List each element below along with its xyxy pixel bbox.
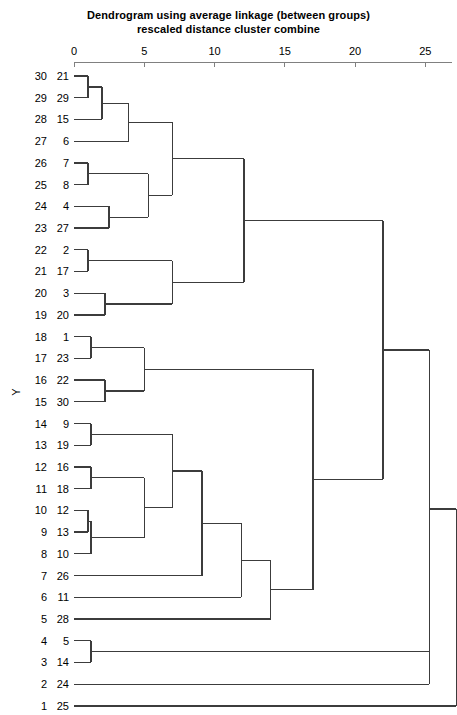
dendrogram-figure: Dendrogram using average linkage (betwee… <box>0 0 457 715</box>
leaf-index-label: 13 <box>35 439 47 451</box>
leaf-case-label: 14 <box>57 656 69 668</box>
x-axis-tick-label: 0 <box>71 45 77 57</box>
leaf-index-label: 15 <box>35 396 47 408</box>
y-axis-label: Y <box>10 388 22 396</box>
leaf-case-label: 26 <box>57 570 69 582</box>
x-axis-tick-label: 15 <box>279 45 291 57</box>
leaf-case-label: 5 <box>63 635 69 647</box>
leaf-index-label: 1 <box>41 700 47 712</box>
leaf-index-label: 17 <box>35 352 47 364</box>
leaf-case-label: 13 <box>57 526 69 538</box>
leaf-case-label: 7 <box>63 157 69 169</box>
leaf-labels: 3021292928152762672582442327222211720319… <box>35 70 69 712</box>
y-axis-title: Y <box>10 388 22 396</box>
leaf-case-label: 12 <box>57 504 69 516</box>
leaf-index-label: 19 <box>35 309 47 321</box>
x-axis-tick-label: 20 <box>349 45 361 57</box>
leaf-index-label: 29 <box>35 92 47 104</box>
x-axis-tick-label: 5 <box>141 45 147 57</box>
leaf-case-label: 20 <box>57 309 69 321</box>
leaf-index-label: 5 <box>41 613 47 625</box>
leaf-case-label: 27 <box>57 222 69 234</box>
leaf-index-label: 22 <box>35 244 47 256</box>
dendrogram-canvas: 0510152025 30212929281527626725824423272… <box>0 0 457 715</box>
leaf-index-label: 25 <box>35 179 47 191</box>
leaf-case-label: 9 <box>63 418 69 430</box>
leaf-case-label: 15 <box>57 113 69 125</box>
leaf-case-label: 8 <box>63 179 69 191</box>
leaf-case-label: 11 <box>58 591 69 603</box>
leaf-case-label: 22 <box>57 374 69 386</box>
leaf-index-label: 16 <box>35 374 47 386</box>
leaf-case-label: 16 <box>57 461 69 473</box>
leaf-case-label: 19 <box>57 439 69 451</box>
leaf-index-label: 3 <box>41 656 47 668</box>
leaf-case-label: 29 <box>57 92 69 104</box>
leaf-case-label: 3 <box>63 287 69 299</box>
leaf-index-label: 20 <box>35 287 47 299</box>
leaf-index-label: 27 <box>35 135 47 147</box>
leaf-index-label: 8 <box>41 548 47 560</box>
leaf-index-label: 18 <box>35 331 47 343</box>
leaf-index-label: 11 <box>36 483 47 495</box>
leaf-case-label: 21 <box>57 70 69 82</box>
leaf-index-label: 7 <box>41 570 47 582</box>
leaf-index-label: 2 <box>41 678 47 690</box>
leaf-case-label: 28 <box>57 613 69 625</box>
x-axis: 0510152025 <box>71 45 452 67</box>
leaf-case-label: 17 <box>57 265 69 277</box>
leaf-index-label: 10 <box>35 504 47 516</box>
leaf-case-label: 23 <box>57 352 69 364</box>
leaf-case-label: 10 <box>57 548 69 560</box>
leaf-index-label: 4 <box>41 635 47 647</box>
leaf-index-label: 26 <box>35 157 47 169</box>
leaf-case-label: 30 <box>57 396 69 408</box>
x-axis-tick-label: 25 <box>419 45 431 57</box>
leaf-index-label: 12 <box>35 461 47 473</box>
leaf-case-label: 4 <box>63 200 69 212</box>
leaf-case-label: 2 <box>63 244 69 256</box>
leaf-case-label: 1 <box>63 331 69 343</box>
leaf-case-label: 6 <box>63 135 69 147</box>
leaf-case-label: 18 <box>57 483 69 495</box>
leaf-index-label: 21 <box>35 265 47 277</box>
x-axis-tick-label: 10 <box>208 45 220 57</box>
dendrogram-tree <box>74 76 456 706</box>
leaf-index-label: 28 <box>35 113 47 125</box>
leaf-index-label: 14 <box>35 418 47 430</box>
leaf-index-label: 23 <box>35 222 47 234</box>
leaf-case-label: 24 <box>57 678 69 690</box>
leaf-case-label: 25 <box>57 700 69 712</box>
leaf-index-label: 6 <box>41 591 47 603</box>
leaf-index-label: 9 <box>41 526 47 538</box>
leaf-index-label: 30 <box>35 70 47 82</box>
leaf-index-label: 24 <box>35 200 47 212</box>
